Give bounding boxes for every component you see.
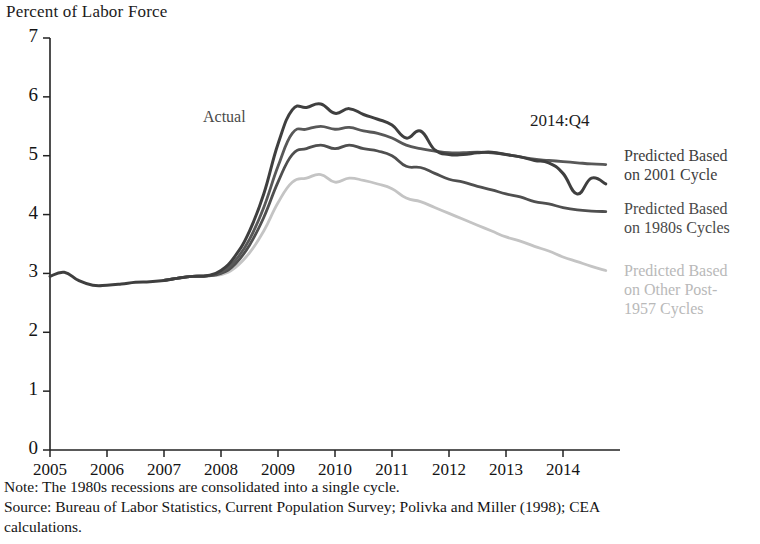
chart-page: Percent of Labor Force 01234567 20052006… xyxy=(0,0,760,544)
legend-item-2001-cycle: Predicted Based on 2001 Cycle xyxy=(624,146,728,184)
date-marker-label: 2014:Q4 xyxy=(530,111,590,131)
y-tick-label-3: 3 xyxy=(8,260,38,282)
legend-other-line2: on Other Post- xyxy=(624,280,728,299)
y-tick-label-2: 2 xyxy=(8,319,38,341)
y-tick-label-0: 0 xyxy=(8,437,38,459)
source-line-continued: calculations. xyxy=(4,517,756,537)
legend-2001-line2: on 2001 Cycle xyxy=(624,165,728,184)
y-tick-label-4: 4 xyxy=(8,202,38,224)
chart-footnotes: Note: The 1980s recessions are consolida… xyxy=(4,477,756,537)
y-tick-label-1: 1 xyxy=(8,378,38,400)
y-tick-label-7: 7 xyxy=(8,25,38,47)
legend-other-line3: 1957 Cycles xyxy=(624,299,728,318)
legend-other-line1: Predicted Based xyxy=(624,261,728,280)
series-line-actual xyxy=(50,104,606,286)
legend-item-other-post-1957-cycles: Predicted Based on Other Post- 1957 Cycl… xyxy=(624,261,728,318)
y-tick-label-5: 5 xyxy=(8,143,38,165)
source-line: Source: Bureau of Labor Statistics, Curr… xyxy=(4,497,756,517)
note-line: Note: The 1980s recessions are consolida… xyxy=(4,477,756,497)
legend-1980s-line2: on 1980s Cycles xyxy=(624,218,730,237)
legend-1980s-line1: Predicted Based xyxy=(624,199,730,218)
legend-2001-line1: Predicted Based xyxy=(624,146,728,165)
y-tick-label-6: 6 xyxy=(8,84,38,106)
actual-series-label: Actual xyxy=(203,108,246,126)
legend-item-1980s-cycles: Predicted Based on 1980s Cycles xyxy=(624,199,730,237)
